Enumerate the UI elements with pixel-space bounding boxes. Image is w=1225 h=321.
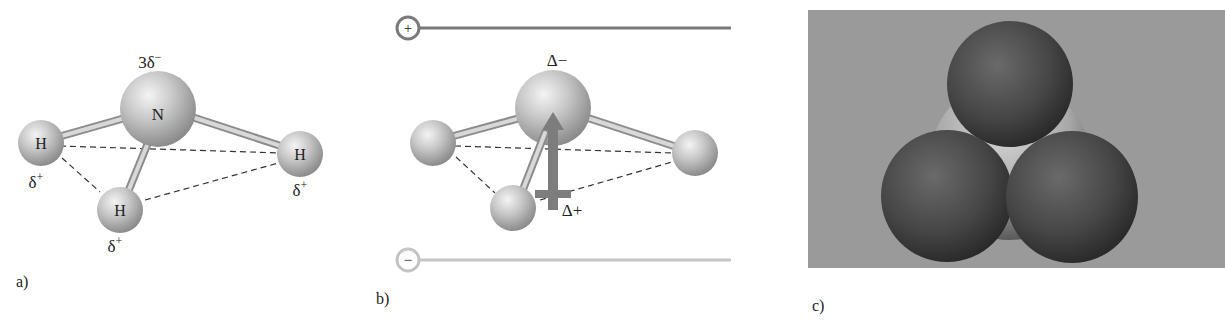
nitrogen-partial-charge: 3δ−: [138, 50, 162, 72]
hydrogen-atom-right-spacefill: [1006, 131, 1138, 263]
h-right-partial-charge: δ+: [293, 178, 308, 200]
hydrogen-atom-left: [410, 120, 456, 166]
panel-a-label: a): [16, 273, 28, 291]
h-left-partial-charge: δ+: [29, 170, 44, 192]
panel-b-label: b): [376, 290, 389, 308]
hydrogen-symbol-right: H: [294, 146, 306, 163]
hydrogen-atom-left-spacefill: [881, 130, 1013, 262]
panel-c-space-filling: c): [808, 10, 1225, 315]
delta-positive-label: Δ+: [562, 201, 583, 220]
panel-a-ball-and-stick: N H H H 3δ− δ+ δ+ δ+ a): [16, 50, 323, 291]
base-triangle-dashed: [60, 146, 282, 200]
hydrogen-symbol-left: H: [35, 135, 47, 152]
panel-c-label: c): [812, 297, 824, 315]
hydrogen-symbol-bottom: H: [114, 202, 126, 219]
hydrogen-atom-right: [672, 130, 718, 176]
nitrogen-symbol: N: [152, 105, 164, 124]
minus-sign-icon: −: [404, 252, 412, 268]
negative-plate: −: [397, 249, 731, 271]
plus-sign-icon: +: [404, 20, 412, 36]
delta-negative-label: Δ−: [547, 51, 568, 70]
panel-b-dipole-in-field: + −: [376, 17, 731, 308]
positive-plate: +: [397, 17, 731, 39]
hydrogen-atom-top-spacefill: [947, 21, 1073, 147]
hydrogen-atom-bottom: [490, 185, 536, 231]
h-bottom-partial-charge: δ+: [108, 234, 123, 256]
ammonia-figure: N H H H 3δ− δ+ δ+ δ+ a) + −: [0, 0, 1225, 321]
